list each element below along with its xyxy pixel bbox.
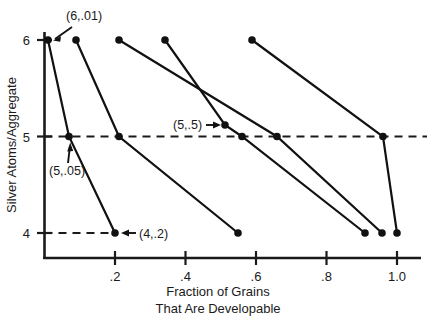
y-axis-title: Silver Atoms/Aggregate — [4, 77, 19, 213]
data-point — [161, 36, 169, 44]
x-tick-label-0.4: .4 — [180, 269, 191, 284]
data-point — [238, 133, 246, 141]
annotation-4-2-arrowhead — [121, 230, 129, 237]
annotation-6-01-text: (6,.01) — [66, 9, 102, 23]
y-tick-label-6: 6 — [23, 33, 30, 48]
data-point — [379, 133, 387, 141]
chart-figure: 6 5 4 .2 .4 .6 .8 1.0 — [0, 0, 431, 325]
annotation-5-5-text: (5,.5) — [173, 118, 202, 132]
data-point — [111, 229, 119, 237]
x-axis-title-line2: That Are Developable — [155, 301, 280, 316]
data-point — [115, 133, 123, 141]
axes-group — [43, 32, 421, 259]
data-point — [72, 36, 80, 44]
data-point — [248, 36, 256, 44]
annotation-6-01-arrow — [55, 27, 72, 39]
annotation-4-2: (4,.2) — [121, 227, 168, 241]
x-tick-label-1.0: 1.0 — [388, 269, 406, 284]
x-tick-label-0.2: .2 — [110, 269, 121, 284]
y-tick-label-5: 5 — [23, 130, 30, 145]
data-point — [234, 229, 242, 237]
x-tick-label-0.8: .8 — [321, 269, 332, 284]
data-point — [115, 36, 123, 44]
data-point — [221, 121, 229, 129]
data-point — [65, 133, 73, 141]
data-point — [378, 229, 386, 237]
data-point — [393, 229, 401, 237]
annotation-4-2-text: (4,.2) — [139, 227, 168, 241]
annotation-5-05-text: (5,.05) — [49, 164, 85, 178]
x-tick-label-0.6: .6 — [251, 269, 262, 284]
data-point — [361, 229, 369, 237]
annotation-5-5: (5,.5) — [173, 118, 221, 132]
data-point — [273, 133, 281, 141]
data-point — [44, 36, 52, 44]
x-axis-title-line1: Fraction of Grains — [166, 284, 270, 299]
y-tick-label-4: 4 — [23, 226, 30, 241]
annotation-5-5-arrowhead — [213, 122, 221, 129]
data-points-group — [44, 36, 401, 237]
chart-svg: 6 5 4 .2 .4 .6 .8 1.0 — [0, 0, 431, 325]
curve-3 — [165, 40, 365, 233]
